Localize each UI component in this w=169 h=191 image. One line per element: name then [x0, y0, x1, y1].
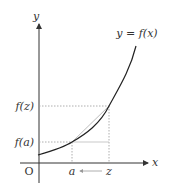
tick-label-z: z	[105, 165, 112, 178]
curve-label: y = f(x)	[115, 27, 157, 40]
curve-f	[38, 46, 136, 155]
tick-label-a: a	[69, 165, 76, 178]
origin-label: O	[24, 165, 33, 178]
secant-line	[72, 106, 109, 142]
y-axis-label: y	[32, 10, 40, 23]
x-axis-label: x	[152, 156, 159, 169]
diagram-canvas: y x O y = f(x) a z f(z) f(a)	[0, 0, 169, 191]
tick-label-fz: f(z)	[15, 100, 34, 113]
tick-label-fa: f(a)	[14, 136, 34, 149]
